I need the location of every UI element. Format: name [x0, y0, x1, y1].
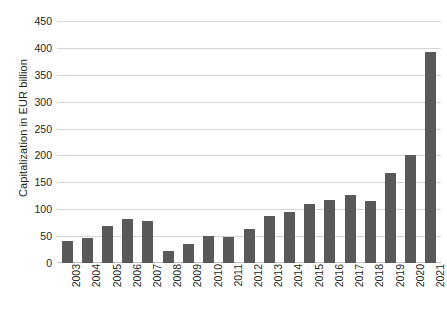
bar-2008[interactable] [163, 251, 174, 263]
y-tick-label-50: 50 [4, 231, 52, 241]
y-tick-label-100: 100 [4, 204, 52, 214]
bars-layer [57, 21, 441, 263]
x-tick-label-2010: 2010 [213, 264, 224, 304]
bar-2011[interactable] [223, 237, 234, 263]
bar-2003[interactable] [62, 241, 73, 263]
bar-2019[interactable] [385, 173, 396, 263]
x-tick-label-2008: 2008 [172, 264, 183, 304]
bar-2018[interactable] [365, 201, 376, 263]
y-tick-label-400: 400 [4, 43, 52, 53]
bar-2005[interactable] [102, 226, 113, 263]
bar-2012[interactable] [244, 229, 255, 263]
x-tick-label-2015: 2015 [314, 264, 325, 304]
bar-chart: Capitalization in EUR billion 0501001502… [0, 0, 447, 309]
bar-2007[interactable] [142, 221, 153, 264]
bar-2004[interactable] [82, 238, 93, 263]
bar-2021[interactable] [425, 52, 436, 263]
x-tick-label-2017: 2017 [354, 264, 365, 304]
y-tick-label-300: 300 [4, 97, 52, 107]
bar-2014[interactable] [284, 212, 295, 263]
bar-2009[interactable] [183, 244, 194, 263]
x-tick-label-2005: 2005 [112, 264, 123, 304]
y-tick-label-0: 0 [4, 258, 52, 268]
y-tick-label-250: 250 [4, 124, 52, 134]
bar-2006[interactable] [122, 219, 133, 263]
x-tick-label-2003: 2003 [71, 264, 82, 304]
bar-2013[interactable] [264, 216, 275, 263]
y-tick-label-150: 150 [4, 177, 52, 187]
x-tick-label-2020: 2020 [415, 264, 426, 304]
x-axis-tick-labels: 2003200420052006200720082009201020112012… [57, 266, 441, 308]
x-tick-label-2013: 2013 [273, 264, 284, 304]
x-tick-label-2012: 2012 [253, 264, 264, 304]
x-tick-label-2019: 2019 [395, 264, 406, 304]
x-tick-label-2011: 2011 [233, 264, 244, 304]
bar-2017[interactable] [345, 195, 356, 263]
bar-2010[interactable] [203, 236, 214, 263]
bar-2016[interactable] [324, 200, 335, 264]
x-tick-label-2007: 2007 [152, 264, 163, 304]
bar-2020[interactable] [405, 155, 416, 263]
x-tick-label-2016: 2016 [334, 264, 345, 304]
x-tick-label-2006: 2006 [132, 264, 143, 304]
x-tick-label-2009: 2009 [192, 264, 203, 304]
x-tick-label-2021: 2021 [435, 264, 446, 304]
bar-2015[interactable] [304, 204, 315, 263]
y-tick-label-450: 450 [4, 16, 52, 26]
x-tick-label-2018: 2018 [374, 264, 385, 304]
y-tick-label-350: 350 [4, 70, 52, 80]
x-tick-label-2004: 2004 [91, 264, 102, 304]
y-axis-tick-labels: 050100150200250300350400450 [0, 21, 52, 263]
y-tick-label-200: 200 [4, 150, 52, 160]
x-tick-label-2014: 2014 [293, 264, 304, 304]
